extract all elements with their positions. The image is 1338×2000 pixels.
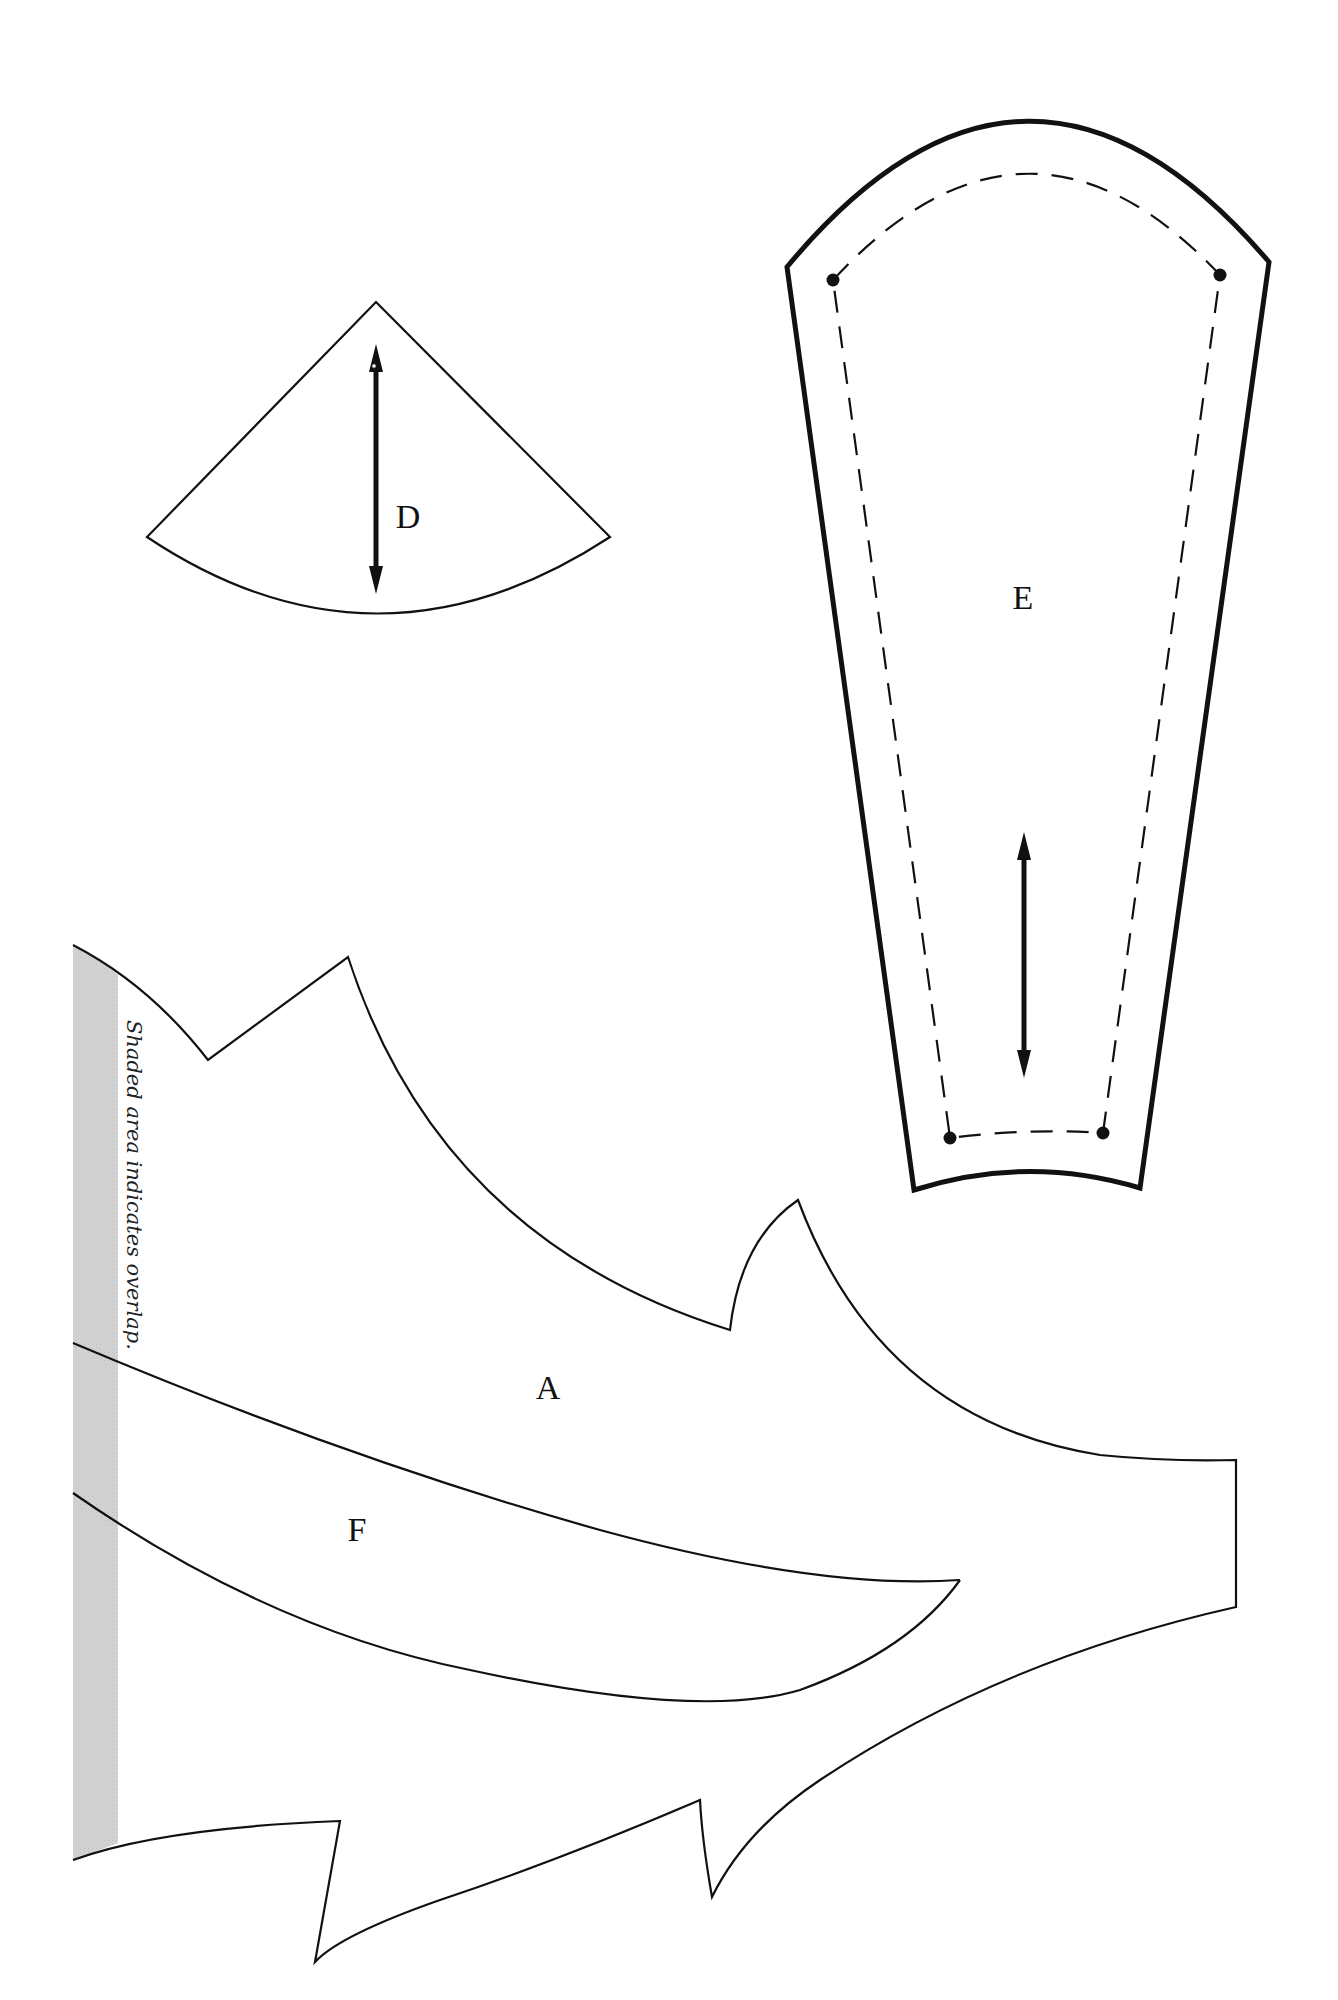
piece-f-label: F xyxy=(348,1513,367,1547)
piece-a-outline xyxy=(73,945,1236,1962)
pattern-piece-f xyxy=(73,1343,960,1701)
piece-f-bottom-edge xyxy=(73,1493,960,1701)
pattern-piece-e xyxy=(787,121,1269,1190)
seam-dot-bottom-left xyxy=(944,1132,957,1145)
overlap-shaded-area xyxy=(73,945,118,1860)
grainline-arrow-icon xyxy=(369,344,383,594)
seam-dot-top-right xyxy=(1214,269,1227,282)
pattern-sheet: D E A F Shaded area indicates overlap. xyxy=(0,0,1338,2000)
pattern-drawing xyxy=(0,0,1338,2000)
piece-f-top-edge xyxy=(73,1343,960,1581)
piece-e-cut-line xyxy=(787,121,1269,1190)
seam-dot-bottom-right xyxy=(1097,1127,1110,1140)
grainline-arrow-icon xyxy=(1017,832,1031,1078)
pattern-piece-a xyxy=(73,945,1236,1962)
piece-e-label: E xyxy=(1013,581,1034,615)
piece-d-label: D xyxy=(396,500,421,534)
seam-dot-top-left xyxy=(827,274,840,287)
overlap-note: Shaded area indicates overlap. xyxy=(122,1020,146,1350)
piece-a-label: A xyxy=(536,1371,561,1405)
pattern-piece-d xyxy=(147,302,610,614)
